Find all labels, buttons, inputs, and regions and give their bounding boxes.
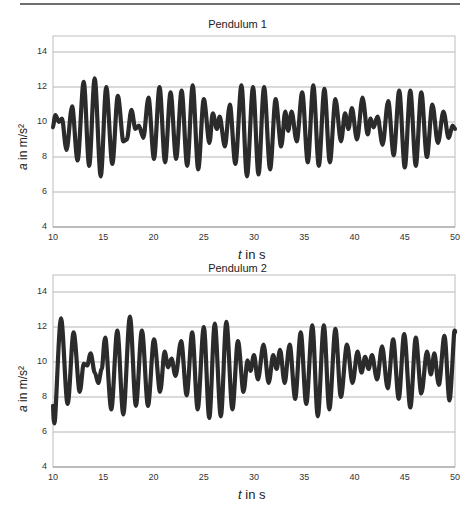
x-tick-label: 10 [38,472,68,482]
x-tick-label: 45 [390,472,420,482]
x-tick-label: 30 [239,472,269,482]
data-series-line [53,317,455,424]
y-tick-label: 10 [27,356,47,366]
y-tick-label: 12 [27,321,47,331]
x-tick-label: 35 [289,472,319,482]
x-tick-label: 20 [139,472,169,482]
plot-area [0,0,475,516]
y-tick-label: 14 [27,286,47,296]
y-axis-label: a in m/s² [16,366,30,412]
x-tick-label: 40 [340,472,370,482]
x-tick-label: 15 [88,472,118,482]
y-tick-label: 8 [27,391,47,401]
chart-pendulum-2: Pendulum 2 a in m/s² t in s 468101214101… [0,0,475,516]
y-tick-label: 4 [27,461,47,471]
x-tick-label: 50 [440,472,470,482]
x-axis-label: t in s [238,487,265,502]
y-tick-label: 6 [27,426,47,436]
x-tick-label: 25 [189,472,219,482]
